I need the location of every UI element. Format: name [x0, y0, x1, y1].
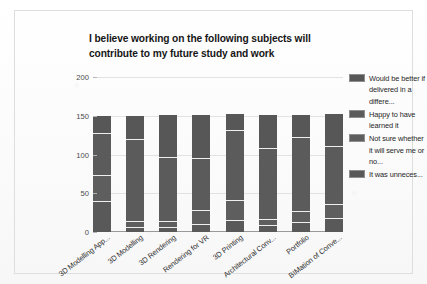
- bar-column[interactable]: [325, 77, 343, 232]
- y-axis-tick-label: 100: [15, 150, 89, 159]
- legend-item[interactable]: It was unneces...: [349, 169, 427, 180]
- bar-segment[interactable]: [259, 225, 277, 232]
- bar-segment[interactable]: [325, 218, 343, 232]
- legend-item[interactable]: Would be better if delivered in a differ…: [349, 73, 427, 107]
- y-axis-tick-label: 50: [15, 189, 89, 198]
- legend-swatch-icon: [349, 134, 365, 142]
- screenshot-page: I believe working on the following subje…: [0, 0, 427, 284]
- chart-title: I believe working on the following subje…: [89, 32, 357, 62]
- bar-segment[interactable]: [292, 137, 310, 211]
- bar-column[interactable]: [126, 77, 144, 232]
- legend-swatch-icon: [349, 170, 365, 178]
- chart-title-line-2: contribute to my future study and work: [89, 47, 357, 62]
- y-axis-tick-label: 200: [15, 73, 89, 82]
- bar-column[interactable]: [292, 77, 310, 232]
- bar-segment[interactable]: [192, 224, 210, 232]
- bar-group: [93, 77, 343, 232]
- bar-segment[interactable]: [325, 204, 343, 218]
- bar-segment[interactable]: [159, 227, 177, 232]
- bar-column[interactable]: [259, 77, 277, 232]
- bar-segment[interactable]: [126, 139, 144, 221]
- bar-segment[interactable]: [93, 175, 111, 201]
- bar-segment[interactable]: [292, 222, 310, 232]
- bar-segment[interactable]: [226, 220, 244, 232]
- chart-frame: I believe working on the following subje…: [14, 10, 413, 274]
- bar-segment[interactable]: [93, 116, 111, 133]
- bar-segment[interactable]: [292, 211, 310, 222]
- chart-title-line-1: I believe working on the following subje…: [89, 32, 357, 47]
- bar-segment[interactable]: [226, 130, 244, 200]
- bar-segment[interactable]: [192, 210, 210, 224]
- legend-label: Not sure whether it will serve me or no.…: [369, 133, 427, 167]
- y-axis-tick-mark: [93, 116, 97, 117]
- bar-segment[interactable]: [226, 114, 244, 130]
- bar-segment[interactable]: [259, 148, 277, 219]
- plot-area: [93, 77, 343, 232]
- bar-segment[interactable]: [159, 115, 177, 157]
- bar-segment[interactable]: [192, 115, 210, 158]
- bar-segment[interactable]: [192, 158, 210, 210]
- bar-segment[interactable]: [325, 146, 343, 204]
- bar-column[interactable]: [226, 77, 244, 232]
- bar-segment[interactable]: [126, 116, 144, 139]
- bar-segment[interactable]: [159, 157, 177, 221]
- bar-segment[interactable]: [93, 201, 111, 232]
- legend-item[interactable]: Happy to have learned it: [349, 109, 427, 132]
- bar-segment[interactable]: [325, 114, 343, 146]
- y-axis-tick-mark: [93, 77, 97, 78]
- bar-segment[interactable]: [292, 115, 310, 137]
- y-axis-tick-mark: [93, 193, 97, 194]
- legend-label: Would be better if delivered in a differ…: [369, 73, 427, 107]
- legend-swatch-icon: [349, 110, 365, 118]
- bar-column[interactable]: [159, 77, 177, 232]
- bar-column[interactable]: [192, 77, 210, 232]
- bar-segment[interactable]: [259, 115, 277, 148]
- legend-label: It was unneces...: [369, 169, 423, 180]
- y-axis-tick-mark: [93, 155, 97, 156]
- bar-segment[interactable]: [226, 200, 244, 219]
- y-axis-tick-label: 0: [15, 228, 89, 237]
- bar-segment[interactable]: [126, 227, 144, 232]
- legend-label: Happy to have learned it: [369, 109, 427, 132]
- legend-item[interactable]: Not sure whether it will serve me or no.…: [349, 133, 427, 167]
- chart-legend: Would be better if delivered in a differ…: [349, 73, 427, 182]
- y-axis-tick-label: 150: [15, 111, 89, 120]
- legend-swatch-icon: [349, 74, 365, 82]
- x-axis-tick-labels: 3D Modelling App...3D Modelling3D Render…: [93, 233, 343, 284]
